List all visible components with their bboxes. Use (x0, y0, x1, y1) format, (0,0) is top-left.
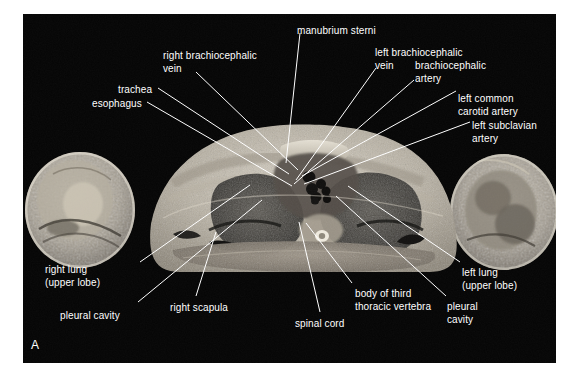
label-manubrium-sterni: manubrium sterni (297, 25, 376, 38)
label-left-lung-upper-lobe-line-0: left lung (462, 267, 517, 280)
label-pleural-cavity-left-line-0: pleural (447, 301, 478, 314)
label-brachiocephalic-artery-line-0: brachiocephalic (415, 60, 486, 73)
label-pleural-cavity-left: pleuralcavity (447, 301, 478, 326)
label-left-subclavian-artery: left subclavianartery (472, 120, 537, 145)
label-right-lung-upper-lobe-line-0: right lung (45, 264, 100, 277)
label-body-of-third-thoracic-vertebra-line-1: thoracic vertebra (355, 301, 431, 314)
label-right-brachiocephalic-vein: right brachiocephalicvein (163, 50, 257, 75)
label-right-lung-upper-lobe-line-1: (upper lobe) (45, 277, 100, 290)
label-brachiocephalic-artery: brachiocephalicartery (415, 60, 486, 85)
label-esophagus: esophagus (92, 98, 142, 111)
label-right-brachiocephalic-vein-line-1: vein (163, 63, 257, 76)
label-trachea: trachea (118, 84, 152, 97)
label-left-subclavian-artery-line-1: artery (472, 133, 537, 146)
label-left-common-carotid-artery-line-0: left common (458, 93, 518, 106)
label-trachea-line-0: trachea (118, 84, 152, 97)
label-right-lung-upper-lobe: right lung(upper lobe) (45, 264, 100, 289)
label-manubrium-sterni-line-0: manubrium sterni (297, 25, 376, 38)
label-left-common-carotid-artery: left commoncarotid artery (458, 93, 518, 118)
label-right-brachiocephalic-vein-line-0: right brachiocephalic (163, 50, 257, 63)
label-left-common-carotid-artery-line-1: carotid artery (458, 106, 518, 119)
label-left-subclavian-artery-line-0: left subclavian (472, 120, 537, 133)
label-pleural-cavity-right-line-0: pleural cavity (60, 310, 120, 323)
label-right-scapula-line-0: right scapula (170, 302, 228, 315)
label-esophagus-line-0: esophagus (92, 98, 142, 111)
label-left-brachiocephalic-vein-line-0: left brachiocephalic (375, 47, 463, 60)
label-spinal-cord-line-0: spinal cord (295, 318, 344, 331)
plate-letter: A (31, 338, 39, 352)
label-pleural-cavity-left-line-1: cavity (447, 314, 478, 327)
label-body-of-third-thoracic-vertebra-line-0: body of third (355, 288, 431, 301)
label-spinal-cord: spinal cord (295, 318, 344, 331)
label-pleural-cavity-right: pleural cavity (60, 310, 120, 323)
label-right-scapula: right scapula (170, 302, 228, 315)
label-body-of-third-thoracic-vertebra: body of thirdthoracic vertebra (355, 288, 431, 313)
label-left-lung-upper-lobe-line-1: (upper lobe) (462, 280, 517, 293)
anatomy-figure: A manubrium sterniright brachiocephalicv… (0, 0, 575, 377)
label-brachiocephalic-artery-line-1: artery (415, 73, 486, 86)
label-left-lung-upper-lobe: left lung(upper lobe) (462, 267, 517, 292)
